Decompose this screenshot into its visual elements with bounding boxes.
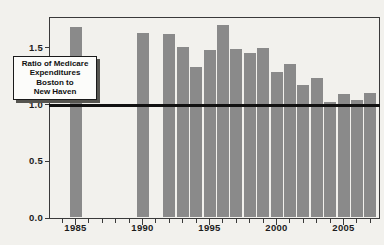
bar-1996 [217, 25, 229, 217]
y-tick-label-0.5: 0.5 [24, 155, 43, 166]
chart-label-line-1: Ratio of Medicare [15, 59, 95, 68]
chart-label-line-2: Expenditures [15, 68, 95, 77]
bar-1998 [244, 53, 256, 217]
bar-2006 [351, 100, 363, 217]
bar-2007 [364, 93, 376, 217]
x-tick-label-1995: 1995 [194, 222, 226, 233]
y-tick-0.5 [45, 161, 49, 162]
x-minor-tick-2002 [303, 219, 304, 223]
y-tick-1.5 [45, 47, 49, 48]
x-minor-tick-1987 [102, 219, 103, 223]
x-minor-tick-2007 [370, 219, 371, 223]
x-minor-tick-1992 [169, 219, 170, 223]
x-minor-tick-1997 [236, 219, 237, 223]
y-tick-0.0 [45, 218, 49, 219]
bar-2001 [284, 64, 296, 217]
x-minor-tick-1993 [182, 219, 183, 223]
bar-1997 [230, 49, 242, 217]
x-tick-label-2005: 2005 [328, 222, 360, 233]
bar-1999 [257, 48, 269, 217]
bar-1994 [190, 67, 202, 217]
bar-1995 [204, 50, 216, 217]
x-tick-label-2000: 2000 [261, 222, 293, 233]
x-minor-tick-2003 [316, 219, 317, 223]
x-minor-tick-1988 [115, 219, 116, 223]
x-minor-tick-1998 [249, 219, 250, 223]
bar-1990 [137, 33, 149, 217]
chart-label-line-3: Boston to [15, 78, 95, 87]
chart-label-line-4: New Haven [15, 87, 95, 96]
reference-line [49, 104, 380, 107]
x-tick-label-1985: 1985 [60, 222, 92, 233]
medicare-ratio-bar-chart: Ratio of Medicare Expenditures Boston to… [0, 0, 384, 245]
bar-2003 [311, 78, 323, 217]
x-tick-label-1990: 1990 [127, 222, 159, 233]
bar-2000 [271, 72, 283, 217]
bar-1992 [163, 34, 175, 217]
y-tick-label-1.5: 1.5 [24, 42, 43, 53]
bar-2005 [338, 94, 350, 217]
bar-1993 [177, 47, 189, 217]
y-tick-label-0.0: 0.0 [24, 212, 43, 223]
bar-2004 [324, 102, 336, 217]
chart-label-box: Ratio of Medicare Expenditures Boston to… [13, 56, 97, 100]
